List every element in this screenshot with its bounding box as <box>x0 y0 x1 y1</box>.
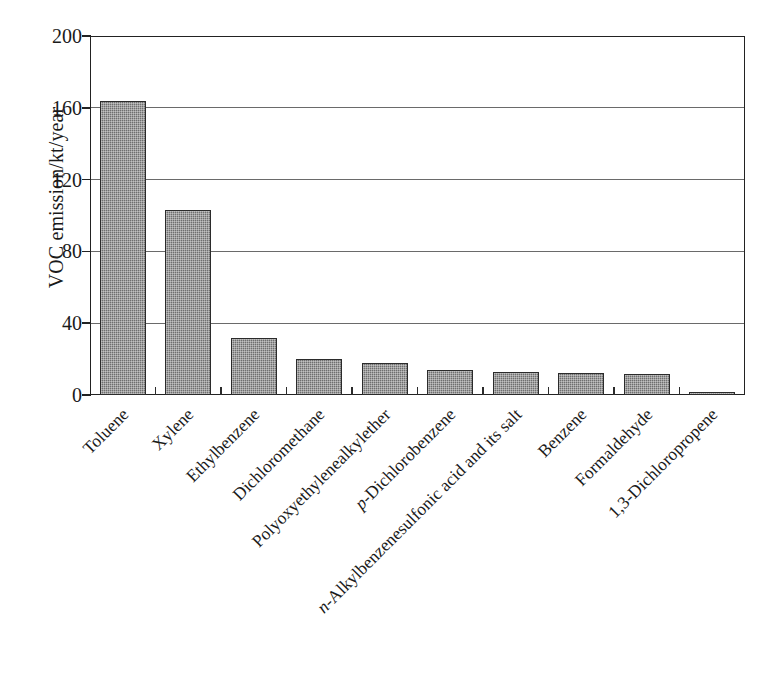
x-axis-category-label: Xylene <box>149 405 198 454</box>
voc-emission-bar-chart: VOC emission/kt/year 04080120160200 Tolu… <box>0 0 758 685</box>
x-axis-category-label: Benzene <box>535 405 591 461</box>
x-axis-category-label: Toluene <box>79 405 132 458</box>
x-axis-category-labels: TolueneXyleneEthylbenzeneDichloromethane… <box>0 0 758 685</box>
